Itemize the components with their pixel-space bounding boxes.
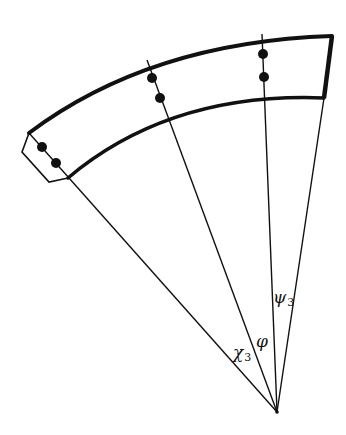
apex-point (275, 410, 279, 414)
label-phi: φ (256, 333, 268, 350)
chi-symbol: χ (233, 342, 243, 362)
dot-pair-middle (147, 73, 165, 103)
psi-symbol: ψ (273, 287, 286, 307)
dot (37, 142, 47, 152)
sector-diagram (0, 0, 346, 435)
inner-arc (68, 98, 324, 178)
label-psi-3: ψ3 (273, 289, 294, 308)
outer-arc (29, 36, 332, 133)
left-end-cap (22, 133, 68, 182)
label-chi-3: χ3 (233, 344, 251, 363)
dot (51, 158, 61, 168)
dot (259, 72, 269, 82)
dot (155, 93, 165, 103)
radial-line-left (29, 133, 277, 412)
radial-line-middle (147, 60, 277, 412)
radial-line-right-edge (277, 98, 324, 412)
radial-lines (29, 34, 324, 412)
radial-line-right-inner (262, 34, 277, 412)
dot (147, 73, 157, 83)
chi-subscript: 3 (244, 351, 251, 364)
dot (258, 49, 268, 59)
right-edge (324, 36, 332, 98)
psi-subscript: 3 (287, 296, 294, 309)
phi-symbol: φ (256, 331, 268, 351)
diagram-canvas: χ3 φ ψ3 (0, 0, 346, 435)
